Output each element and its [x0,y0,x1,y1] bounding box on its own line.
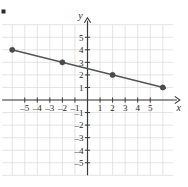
axis-names: xy [77,10,181,113]
line-segment [11,49,165,88]
corner-marker-icon [2,10,6,14]
y-tick-label: 4 [79,45,84,55]
plot-area: –5–4–3–2–11234554321–1–2–3–4–5 xy [0,0,188,187]
y-tick-label: –2 [74,120,84,130]
y-tick-label: 1 [79,83,84,93]
x-tick-label: –5 [19,103,30,113]
x-tick-label: –2 [57,103,67,113]
corner-square-icon [2,10,6,14]
y-tick-label: 5 [79,33,84,43]
data-point [10,47,15,52]
data-point [60,60,65,65]
axes [2,18,180,176]
x-tick-label: –3 [44,103,55,113]
y-tick-label: –5 [74,158,85,168]
data-point [160,85,165,90]
x-tick-label: 1 [98,103,103,113]
y-tick-label: 2 [79,70,84,80]
y-tick-label: –1 [74,108,84,118]
x-tick-label: 3 [123,103,128,113]
y-tick-label: –3 [74,133,85,143]
data-point [110,72,115,77]
x-tick-label: –4 [32,103,43,113]
coordinate-graph: –5–4–3–2–11234554321–1–2–3–4–5 xy [0,0,188,187]
y-tick-label: –4 [74,146,85,156]
x-tick-label: 5 [148,103,153,113]
x-tick-label: 4 [135,103,140,113]
x-axis-label: x [176,102,182,113]
y-axis-label: y [77,10,83,21]
data-line [11,49,165,88]
x-tick-label: 2 [110,103,115,113]
